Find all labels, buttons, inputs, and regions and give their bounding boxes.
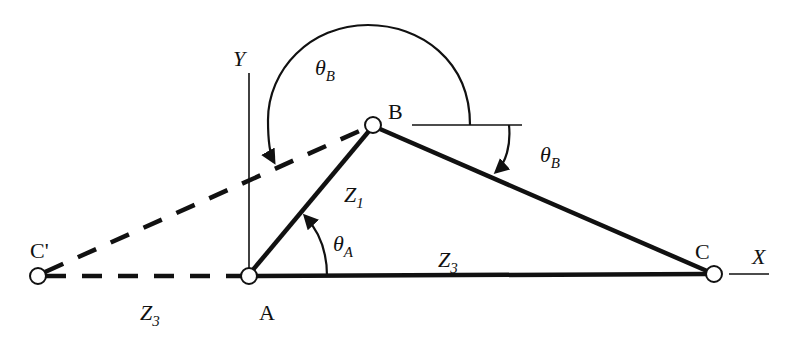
label-theta-b-lower: θB	[540, 142, 560, 171]
y-axis-label: Y	[233, 46, 248, 71]
theta-b-lower-arc	[496, 125, 509, 172]
pin-a	[241, 268, 257, 284]
label-c: C	[695, 239, 710, 264]
label-z1: Z1	[344, 182, 364, 211]
link-z3	[257, 274, 706, 276]
theta-a-arc	[305, 216, 327, 276]
linkage-diagram: Y X C' A B C Z1 Z3 Z3 θA θB θB	[0, 0, 790, 347]
label-b: B	[388, 99, 403, 124]
label-theta-a: θA	[333, 231, 354, 260]
link-bc-prime-dashed	[45, 128, 366, 272]
pin-c	[706, 266, 722, 282]
x-axis-label: X	[751, 244, 767, 269]
label-theta-b-upper: θB	[315, 55, 335, 84]
pin-b	[365, 117, 381, 133]
theta-b-upper-arc	[268, 25, 470, 162]
label-z3: Z3	[438, 247, 458, 276]
label-c-prime: C'	[30, 238, 49, 263]
label-a: A	[259, 300, 275, 325]
pin-c-prime	[30, 268, 46, 284]
label-z3-prime: Z3	[140, 300, 160, 329]
